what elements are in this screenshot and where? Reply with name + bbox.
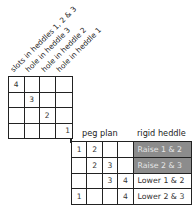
- tieup-row: 2: [9, 108, 73, 124]
- peg-cell: [87, 189, 102, 205]
- peg-cell: 3: [102, 173, 117, 189]
- tieup-cell: [9, 108, 25, 124]
- tieup-row: 4: [9, 77, 73, 93]
- peg-plan-row: 3 4 Lower 1 & 2: [72, 173, 192, 189]
- peg-cell: [118, 142, 133, 158]
- heddle-action: Raise 1 & 2: [133, 142, 191, 158]
- tieup-cell: 3: [24, 92, 40, 108]
- tieup-cell: 2: [40, 108, 56, 124]
- tieup-cell: [55, 92, 73, 108]
- tieup-grid: 4 3 2 1: [8, 76, 73, 139]
- peg-cell: 2: [87, 142, 102, 158]
- tieup-cell: [40, 123, 56, 139]
- peg-cell: 3: [102, 157, 117, 173]
- peg-plan-row: 1 2 Raise 1 & 2: [72, 142, 192, 158]
- peg-cell: 1: [72, 142, 87, 158]
- tieup-row: 1: [9, 123, 73, 139]
- peg-plan-row: 1 4 Lower 2 & 3: [72, 189, 192, 205]
- peg-plan-table: 1 2 Raise 1 & 2 2 3 Raise 2 & 3 3 4 Lowe…: [71, 141, 192, 205]
- peg-cell: 1: [72, 189, 87, 205]
- tieup-cell: [55, 77, 73, 93]
- peg-cell: 4: [118, 189, 133, 205]
- peg-cell: [102, 189, 117, 205]
- tieup-cell: 4: [9, 77, 25, 93]
- peg-cell: [102, 142, 117, 158]
- peg-cell: [72, 157, 87, 173]
- peg-plan-header: peg plan: [82, 128, 118, 138]
- peg-plan-row: 2 3 Raise 2 & 3: [72, 157, 192, 173]
- peg-cell: [72, 173, 87, 189]
- peg-cell: [87, 173, 102, 189]
- heddle-action: Lower 2 & 3: [133, 189, 191, 205]
- tieup-cell: [24, 108, 40, 124]
- rigid-heddle-header: rigid heddle: [137, 128, 186, 138]
- tieup-cell: [24, 77, 40, 93]
- peg-cell: [118, 157, 133, 173]
- heddle-action: Lower 1 & 2: [133, 173, 191, 189]
- tieup-row: 3: [9, 92, 73, 108]
- tieup-cell: [40, 92, 56, 108]
- tieup-cell: [40, 77, 56, 93]
- tieup-cell: [9, 123, 25, 139]
- heddle-action: Raise 2 & 3: [133, 157, 191, 173]
- peg-cell: 4: [118, 173, 133, 189]
- tieup-cell: [9, 92, 25, 108]
- tieup-cell: 1: [55, 123, 73, 139]
- tieup-cell: [24, 123, 40, 139]
- tieup-cell: [55, 108, 73, 124]
- peg-cell: 2: [87, 157, 102, 173]
